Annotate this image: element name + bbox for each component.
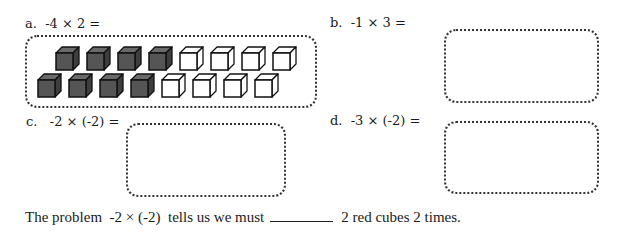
empty-cube-icon [242,47,265,70]
filled-cube-icon [38,74,61,97]
empty-cube-icon [193,74,216,97]
empty-cube-icon [211,47,234,70]
empty-cube-icon [255,74,278,97]
sentence-before: The problem -2 × (-2) tells us we must [25,209,264,225]
filled-cube-icon [69,74,92,97]
empty-cube-icon [180,47,203,70]
filled-cube-icon [149,47,172,70]
filled-cube-icon [118,47,141,70]
filled-cube-icon [56,47,79,70]
filled-cube-icon [100,74,123,97]
sentence-after: 2 red cubes 2 times. [341,209,461,225]
empty-cube-icon [162,74,185,97]
filled-cube-icon [87,47,110,70]
filled-cube-icon [131,74,154,97]
empty-cube-icon [224,74,247,97]
fill-in-sentence: The problem -2 × (-2) tells us we must2 … [25,209,461,225]
empty-cube-icon [273,47,296,70]
cube-model [0,0,619,242]
answer-blank[interactable] [270,209,333,222]
